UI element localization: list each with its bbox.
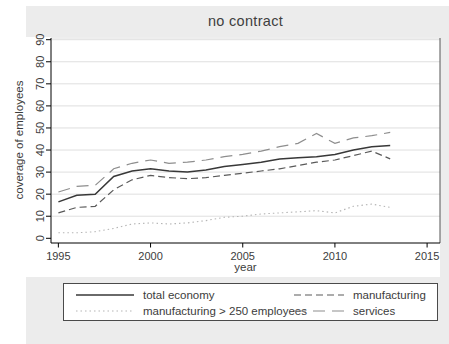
legend-line-sample-longdash: [294, 306, 344, 316]
y-tick-label: 30: [34, 166, 46, 178]
legend-label: total economy: [143, 289, 215, 301]
y-tick-label: 20: [34, 188, 46, 200]
chart-figure: 010203040506070809019952000200520102015 …: [0, 0, 449, 344]
y-tick-label: 10: [34, 210, 46, 222]
y-axis-label: coverage of employees: [13, 75, 25, 205]
legend-label: services: [353, 305, 395, 317]
y-tick-label: 80: [34, 56, 46, 68]
y-tick-label: 40: [34, 144, 46, 156]
x-axis-label: year: [51, 261, 440, 273]
chart-title: no contract: [51, 13, 440, 29]
legend-label: manufacturing > 250 employees: [143, 305, 307, 317]
legend-line-sample-dotted: [76, 306, 134, 316]
legend-entry-manufacturing: manufacturing: [294, 289, 426, 301]
legend-entry-total-economy: total economy: [76, 289, 215, 301]
legend-label: manufacturing: [353, 289, 426, 301]
y-tick-label: 0: [34, 235, 46, 241]
y-tick-label: 50: [34, 122, 46, 134]
legend-line-sample-dashed: [294, 290, 344, 300]
legend: total economy manufacturing manufacturin…: [63, 283, 438, 321]
series-line-0: [58, 146, 390, 202]
legend-line-sample-solid: [76, 290, 134, 300]
series-line-3: [58, 132, 390, 192]
y-tick-label: 70: [34, 78, 46, 90]
y-tick-label: 90: [34, 34, 46, 46]
legend-entry-manufacturing-250: manufacturing > 250 employees: [76, 305, 307, 317]
legend-entry-services: services: [294, 305, 395, 317]
series-line-2: [58, 204, 390, 233]
y-tick-label: 60: [34, 100, 46, 112]
